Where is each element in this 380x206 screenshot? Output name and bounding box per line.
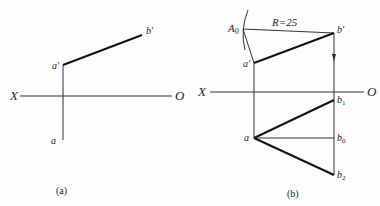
panel-b-line-a-b1 [254,100,334,138]
panel-a: X O a′ b′ a (a) [9,25,185,197]
panel-b-line-a0-b-prime [243,29,334,33]
panel-b-caption: (b) [287,188,299,200]
panel-b-line-ab-prime [254,33,334,63]
panel-a-line-ab-prime [63,35,142,65]
panel-a-caption: (a) [56,185,67,197]
projection-diagram: X O a′ b′ a (a) X O R=25 A0 b′ [0,0,380,206]
panel-b-label-b2: b2 [337,169,346,182]
panel-a-axis-o-label: O [175,88,185,103]
panel-b-annotation-r25: R=25 [271,16,298,28]
panel-b-axis-x-label: X [197,84,207,99]
panel-b-label-b-prime: b′ [337,24,345,35]
panel-b-label-b1: b1 [337,94,346,107]
panel-a-label-b-prime: b′ [146,25,154,36]
panel-b-label-b0: b0 [337,132,346,145]
panel-b-axis-o-label: O [367,84,377,99]
panel-b-label-a0: A0 [227,22,239,36]
panel-b-label-a: a [244,132,249,143]
panel-a-label-a-prime: a′ [52,60,60,71]
panel-b-label-a-prime: a′ [243,58,251,69]
panel-b-line-a-b2 [254,138,334,175]
panel-a-label-a: a [51,135,56,146]
panel-a-axis-x-label: X [9,88,19,103]
panel-b: X O R=25 A0 b′ a′ a b1 b0 b2 (b) [197,10,377,200]
panel-b-arrow-down-icon [332,54,336,61]
diagram-canvas: X O a′ b′ a (a) X O R=25 A0 b′ [0,0,380,206]
